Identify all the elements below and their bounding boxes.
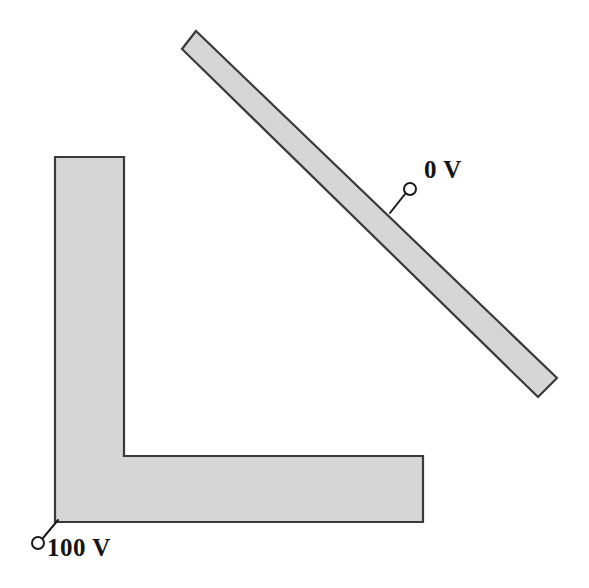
voltage-label-zero-v: 0 V [424, 157, 462, 182]
diagonal-bar-conductor [182, 31, 557, 397]
conductor-diagram-svg [0, 0, 589, 588]
voltage-label-hundred-v: 100 V [47, 535, 111, 560]
terminal-circle-zero-v [404, 183, 416, 195]
terminal-circle-hundred-v [32, 537, 44, 549]
leader-line-zero-v [390, 194, 405, 213]
figure-canvas: 0 V 100 V [0, 0, 589, 588]
